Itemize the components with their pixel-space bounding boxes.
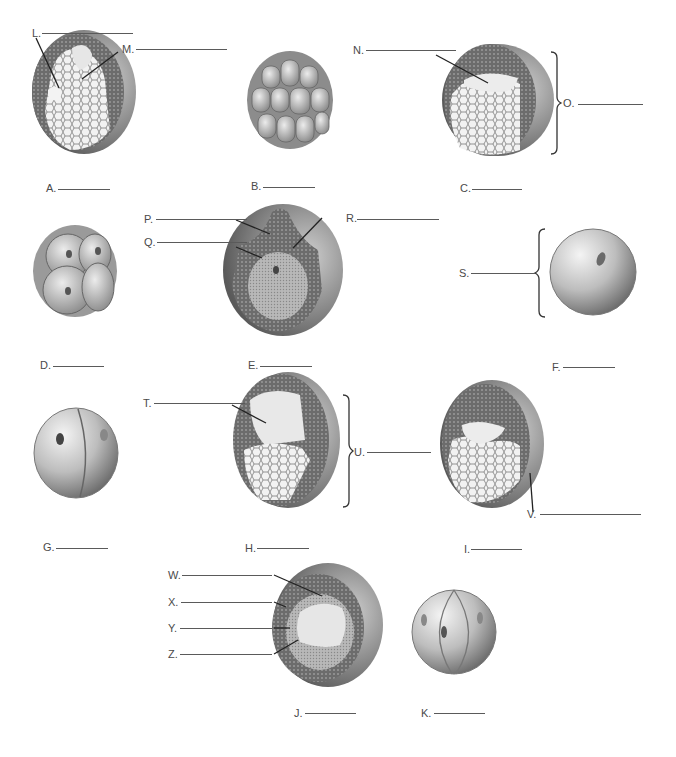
part-label-Z: Z. bbox=[168, 648, 178, 660]
answer-blank-C[interactable] bbox=[472, 189, 522, 190]
answer-blank-Y[interactable] bbox=[180, 628, 272, 629]
answer-blank-W[interactable] bbox=[182, 575, 272, 576]
stage-label-E: E. bbox=[248, 359, 258, 371]
illustration-J bbox=[272, 563, 383, 687]
answer-blank-Z[interactable] bbox=[180, 654, 272, 655]
illustration-F bbox=[535, 229, 636, 317]
answer-blank-F[interactable] bbox=[563, 367, 615, 368]
part-label-U: U. bbox=[354, 446, 365, 458]
answer-blank-D[interactable] bbox=[53, 366, 104, 367]
answer-blank-J[interactable] bbox=[305, 713, 356, 714]
illustration-D bbox=[33, 225, 117, 317]
answer-blank-V[interactable] bbox=[540, 514, 641, 515]
part-label-N: N. bbox=[353, 44, 364, 56]
stage-label-F: F. bbox=[552, 361, 561, 373]
illustration-A bbox=[32, 30, 136, 154]
stage-label-H: H. bbox=[245, 542, 256, 554]
answer-blank-U[interactable] bbox=[367, 452, 431, 453]
answer-blank-S[interactable] bbox=[471, 273, 535, 274]
answer-blank-M[interactable] bbox=[136, 49, 227, 50]
part-label-W: W. bbox=[168, 569, 181, 581]
answer-blank-N[interactable] bbox=[366, 50, 456, 51]
illustration-C bbox=[436, 44, 561, 156]
stage-label-G: G. bbox=[43, 541, 55, 553]
illustration-E bbox=[223, 204, 343, 336]
part-label-X: X. bbox=[168, 596, 178, 608]
answer-blank-P[interactable] bbox=[156, 219, 247, 220]
answer-blank-G[interactable] bbox=[56, 548, 108, 549]
illustration-B bbox=[247, 51, 333, 149]
stage-label-J: J. bbox=[294, 707, 303, 719]
answer-blank-X[interactable] bbox=[181, 602, 272, 603]
answer-blank-L[interactable] bbox=[42, 33, 133, 34]
part-label-L: L. bbox=[32, 27, 41, 39]
answer-blank-T[interactable] bbox=[154, 403, 245, 404]
answer-blank-H[interactable] bbox=[257, 548, 309, 549]
part-label-V: V. bbox=[527, 508, 536, 520]
stage-label-K: K. bbox=[421, 707, 431, 719]
part-label-O: O. bbox=[563, 97, 575, 109]
part-label-Y: Y. bbox=[168, 622, 177, 634]
part-label-T: T. bbox=[143, 397, 152, 409]
part-label-Q: Q. bbox=[144, 236, 156, 248]
answer-blank-K[interactable] bbox=[434, 713, 485, 714]
stage-label-B: B. bbox=[251, 180, 261, 192]
part-label-P: P. bbox=[144, 213, 153, 225]
illustration-I bbox=[440, 380, 544, 512]
stage-label-D: D. bbox=[40, 359, 51, 371]
part-label-M: M. bbox=[122, 43, 134, 55]
illustration-H bbox=[232, 372, 340, 508]
answer-blank-I[interactable] bbox=[471, 549, 522, 550]
answer-blank-A[interactable] bbox=[58, 189, 110, 190]
stage-label-A: A. bbox=[46, 182, 56, 194]
illustration-K bbox=[412, 590, 496, 674]
answer-blank-B[interactable] bbox=[263, 187, 315, 188]
diagram-artwork bbox=[0, 0, 676, 757]
answer-blank-Q[interactable] bbox=[157, 242, 247, 243]
part-label-S: S. bbox=[459, 267, 469, 279]
illustration-G bbox=[34, 408, 118, 498]
stage-label-C: C. bbox=[460, 182, 471, 194]
part-label-R: R. bbox=[346, 212, 357, 224]
answer-blank-R[interactable] bbox=[357, 219, 439, 220]
stage-label-I: I. bbox=[464, 543, 470, 555]
answer-blank-O[interactable] bbox=[578, 104, 643, 105]
answer-blank-E[interactable] bbox=[260, 366, 312, 367]
